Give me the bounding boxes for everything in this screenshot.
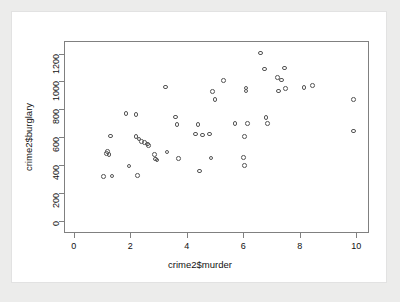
data-point <box>279 78 284 83</box>
data-point <box>233 121 238 126</box>
y-tick-label: 1200 <box>51 54 61 74</box>
data-point <box>282 66 287 71</box>
x-tick-mark <box>300 233 301 238</box>
y-tick-label: 600 <box>51 137 61 152</box>
data-point <box>276 89 281 94</box>
y-tick-label: 200 <box>51 193 61 208</box>
data-point <box>265 121 270 126</box>
y-axis-title: crime2$burglary <box>23 103 34 171</box>
data-point <box>193 132 198 137</box>
x-tick-label: 10 <box>351 241 361 251</box>
data-point <box>135 173 140 178</box>
x-tick-mark <box>356 233 357 238</box>
data-point <box>262 67 267 72</box>
page-root: 0246810 020040060080010001200 crime2$mur… <box>0 0 400 302</box>
data-point <box>152 152 157 157</box>
x-tick-label: 6 <box>241 241 246 251</box>
x-tick-label: 4 <box>184 241 189 251</box>
data-point <box>258 51 263 56</box>
y-tick-label: 800 <box>51 109 61 124</box>
data-point <box>176 156 181 161</box>
y-tick-label: 1000 <box>51 81 61 101</box>
data-point <box>283 86 288 91</box>
data-point <box>101 174 106 179</box>
data-point <box>213 97 218 102</box>
data-point <box>221 78 226 83</box>
plot-card: 0246810 020040060080010001200 crime2$mur… <box>11 11 387 283</box>
x-axis-title: crime2$murder <box>12 259 388 270</box>
data-point <box>207 132 212 137</box>
scatter-plot: 0246810 020040060080010001200 crime2$mur… <box>12 12 388 284</box>
data-point <box>245 121 250 126</box>
data-point <box>210 89 215 94</box>
data-point <box>310 83 315 88</box>
data-point <box>146 143 151 148</box>
data-point <box>241 155 246 160</box>
data-point <box>242 163 247 168</box>
y-tick-label: 0 <box>51 221 61 226</box>
cut-off-footer-text <box>14 292 294 300</box>
data-point <box>264 115 269 120</box>
x-tick-label: 0 <box>71 241 76 251</box>
data-point <box>124 111 129 116</box>
data-point <box>351 97 356 102</box>
data-point <box>242 134 247 139</box>
x-tick-label: 8 <box>297 241 302 251</box>
x-tick-label: 2 <box>128 241 133 251</box>
data-point <box>108 134 113 139</box>
x-tick-mark <box>243 233 244 238</box>
data-point <box>351 129 356 134</box>
x-tick-mark <box>74 233 75 238</box>
x-tick-mark <box>130 233 131 238</box>
data-point <box>200 133 205 138</box>
y-tick-label: 400 <box>51 165 61 180</box>
x-tick-mark <box>187 233 188 238</box>
data-point <box>163 85 168 90</box>
